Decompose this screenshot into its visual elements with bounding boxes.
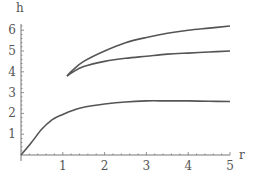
- x-tick-label: 3: [143, 159, 151, 173]
- y-tick-label: 5: [8, 44, 16, 58]
- series-line-0: [21, 101, 230, 155]
- y-tick-label: 6: [8, 23, 16, 37]
- x-axis-label: r: [239, 148, 245, 162]
- axes: [21, 24, 230, 161]
- x-tick-label: 5: [226, 159, 234, 173]
- y-tick-label: 2: [8, 106, 16, 120]
- line-chart: 12345123456rh: [0, 0, 253, 180]
- axis-labels: 12345123456rh: [8, 1, 245, 173]
- x-tick-label: 2: [101, 159, 109, 173]
- y-axis-label: h: [16, 1, 24, 15]
- y-tick-label: 1: [8, 127, 16, 141]
- series-line-2: [67, 26, 230, 76]
- x-tick-label: 4: [184, 159, 192, 173]
- series-lines: [21, 26, 230, 155]
- series-line-1: [67, 51, 230, 76]
- x-tick-label: 1: [59, 159, 67, 173]
- y-tick-label: 3: [8, 86, 16, 100]
- y-tick-label: 4: [8, 65, 16, 79]
